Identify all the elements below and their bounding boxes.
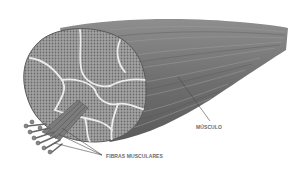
muscle-diagram: MÚSCULO FIBRAS MUSCULARES [0, 0, 301, 171]
muscle-illustration [0, 0, 301, 171]
muscle-fibers-label: FIBRAS MUSCULARES [106, 153, 163, 159]
muscle-label: MÚSCULO [196, 124, 222, 130]
